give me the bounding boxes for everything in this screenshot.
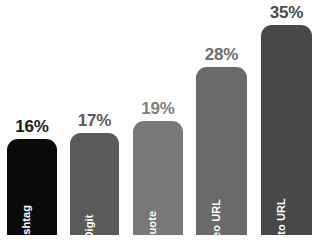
bar-video-url[interactable]: Video URL bbox=[196, 67, 247, 235]
bar-value-label-hashtag: 16% bbox=[15, 118, 48, 135]
bar-category-label-hashtag: Hashtag bbox=[21, 205, 32, 244]
bar-group-photo-url: Photo URL 35% bbox=[261, 25, 312, 235]
bar-value-label-video-url: 28% bbox=[205, 46, 238, 63]
bar-group-digit: Digit 17% bbox=[70, 133, 119, 235]
bar-group-hashtag: Hashtag 16% bbox=[7, 139, 57, 235]
bar-category-label-video-url: Video URL bbox=[211, 199, 222, 244]
plot-area: Hashtag 16% Digit 17% Quote 19% Video UR… bbox=[0, 0, 316, 244]
bar-category-label-digit: Digit bbox=[84, 215, 95, 240]
bar-category-label-quote: Quote bbox=[147, 211, 158, 243]
bar-photo-url[interactable]: Photo URL bbox=[261, 25, 312, 235]
bar-digit[interactable]: Digit bbox=[70, 133, 119, 235]
bar-hashtag[interactable]: Hashtag bbox=[7, 139, 57, 235]
bar-value-label-digit: 17% bbox=[78, 112, 111, 129]
bar-value-label-quote: 19% bbox=[141, 100, 174, 117]
bar-group-video-url: Video URL 28% bbox=[196, 67, 247, 235]
bar-quote[interactable]: Quote bbox=[133, 121, 183, 235]
bar-value-label-photo-url: 35% bbox=[270, 4, 303, 21]
bar-chart: Hashtag 16% Digit 17% Quote 19% Video UR… bbox=[0, 0, 316, 244]
bar-group-quote: Quote 19% bbox=[133, 121, 183, 235]
bar-category-label-photo-url: Photo URL bbox=[276, 198, 287, 244]
